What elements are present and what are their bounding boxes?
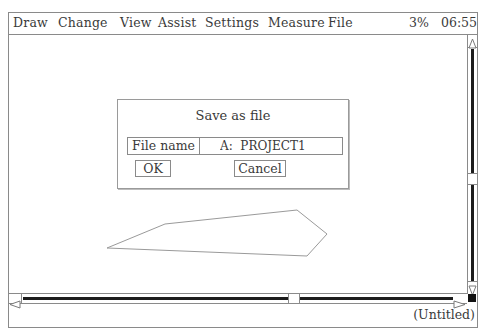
save-as-dialog: Save as file File name OK Cancel [117, 99, 349, 189]
drawn-polygon[interactable] [107, 210, 327, 256]
menu-settings[interactable]: Settings [205, 15, 259, 30]
status-bar: (Untitled) [9, 304, 477, 327]
scroll-up-button[interactable] [468, 35, 477, 48]
scroll-left-button[interactable] [9, 294, 22, 303]
menu-assist[interactable]: Assist [158, 15, 197, 30]
vertical-scrollbar[interactable] [467, 35, 477, 294]
menu-file[interactable]: File [328, 15, 353, 30]
menu-measure[interactable]: Measure [268, 15, 325, 30]
ok-button[interactable]: OK [135, 160, 171, 177]
menu-view[interactable]: View [120, 15, 152, 30]
file-name-label: File name [128, 138, 200, 154]
menu-bar: Draw Change View Assist Settings Measure… [9, 13, 477, 35]
cancel-button[interactable]: Cancel [234, 160, 286, 177]
menu-draw[interactable]: Draw [13, 15, 48, 30]
app-window: Draw Change View Assist Settings Measure… [8, 12, 478, 328]
document-name: (Untitled) [413, 307, 475, 322]
vertical-scroll-thumb[interactable] [468, 173, 477, 185]
horizontal-scroll-thumb[interactable] [288, 294, 300, 303]
scroll-down-button[interactable] [468, 281, 477, 294]
scroll-corner [468, 294, 476, 302]
horizontal-scroll-track[interactable] [23, 297, 453, 300]
horizontal-scrollbar[interactable] [9, 293, 467, 304]
file-name-input[interactable] [200, 138, 342, 154]
menu-change[interactable]: Change [58, 15, 108, 30]
dialog-title: Save as file [118, 108, 348, 123]
zoom-level: 3% [409, 15, 429, 30]
file-name-row: File name [127, 137, 343, 155]
vertical-scroll-track[interactable] [471, 49, 474, 281]
scroll-right-button[interactable] [453, 294, 467, 303]
clock: 06:55 [441, 15, 477, 30]
